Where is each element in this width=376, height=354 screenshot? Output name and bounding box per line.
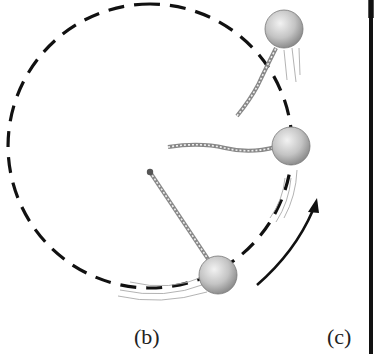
panel-c-edge bbox=[369, 0, 373, 354]
ball-top-released bbox=[265, 10, 303, 48]
curved-arrow-counterclockwise bbox=[257, 198, 319, 285]
dashed-circle bbox=[8, 4, 292, 288]
ball-bottom bbox=[199, 256, 237, 294]
figure: (b) (c) bbox=[0, 0, 376, 354]
strings bbox=[150, 48, 276, 265]
panel-label-b: (b) bbox=[134, 324, 160, 350]
panel-label-c: (c) bbox=[327, 324, 351, 350]
ball-right bbox=[272, 127, 310, 165]
pendulum-diagram bbox=[0, 0, 376, 354]
pivot-point bbox=[147, 169, 153, 175]
